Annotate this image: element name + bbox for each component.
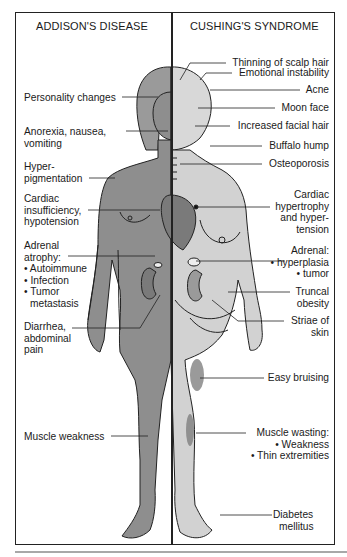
label-acne: Acne bbox=[306, 84, 329, 96]
label-increased-facial-hair: Increased facial hair bbox=[238, 120, 329, 132]
label-cardiac-hypertrophy: Cardiac hypertrophy and hyper- tension bbox=[275, 189, 329, 235]
label-hyperpigmentation: Hyper- pigmentation bbox=[24, 161, 82, 184]
cushing-body bbox=[171, 67, 262, 538]
cushing-header: CUSHING'S SYNDROME bbox=[190, 20, 319, 32]
label-osteoporosis: Osteoporosis bbox=[269, 158, 329, 170]
label-diarrhea: Diarrhea, abdominal pain bbox=[24, 321, 71, 356]
label-easy-bruising: Easy bruising bbox=[268, 372, 329, 384]
label-muscle-weakness: Muscle weakness bbox=[24, 431, 104, 443]
label-buffalo-hump: Buffalo hump bbox=[269, 140, 329, 152]
label-cardiac-insufficiency: Cardiac insufficiency, hypotension bbox=[24, 193, 81, 228]
label-truncal-obesity: Truncal obesity bbox=[295, 286, 329, 309]
center-divider bbox=[171, 12, 173, 545]
addison-header: ADDISON'S DISEASE bbox=[36, 20, 148, 32]
label-muscle-wasting: Muscle wasting: • Weakness • Thin extrem… bbox=[251, 427, 329, 462]
label-diabetes-mellitus: Diabetes mellitus bbox=[273, 509, 314, 532]
label-moon-face: Moon face bbox=[281, 102, 329, 114]
label-anorexia: Anorexia, nausea, vomiting bbox=[24, 126, 106, 149]
bottom-rule bbox=[15, 551, 347, 553]
label-emotional-instability: Emotional instability bbox=[239, 67, 329, 79]
label-striae-of-skin: Striae of skin bbox=[291, 315, 329, 338]
label-adrenal-atrophy: Adrenal atrophy: • Autoimmune • Infectio… bbox=[24, 240, 87, 310]
label-adrenal-hyperplasia: Adrenal: • hyperplasia • tumor bbox=[271, 245, 330, 280]
label-personality-changes: Personality changes bbox=[24, 92, 116, 104]
